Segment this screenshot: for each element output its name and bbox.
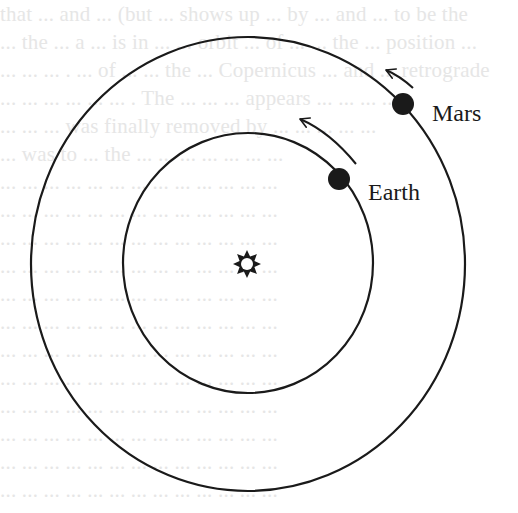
- mars-direction-arrow-icon: [386, 70, 413, 88]
- sun-star-icon: [233, 250, 261, 278]
- earth-direction-arrow-icon: [300, 119, 356, 164]
- earth-label: Earth: [368, 179, 420, 205]
- earth-planet: [328, 168, 350, 190]
- earth-dot: [328, 168, 350, 190]
- orbit-diagram: that ... and ... (but ... shows up ... b…: [0, 0, 518, 513]
- mars-planet: [392, 93, 414, 115]
- orbit-figure: Earth Mars: [0, 0, 518, 513]
- mars-label: Mars: [432, 100, 481, 126]
- mars-dot: [392, 93, 414, 115]
